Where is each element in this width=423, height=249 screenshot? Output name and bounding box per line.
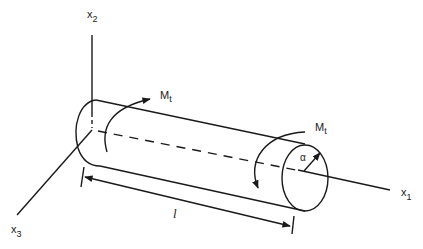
length-tick-right [292, 216, 294, 234]
right-torque-arrow [255, 132, 305, 188]
x1-axis [298, 170, 390, 190]
diagram-svg: x2 x3 x1 Mt Mt α l [0, 0, 423, 249]
x3-axis [17, 130, 92, 215]
radius-label: α [300, 152, 306, 163]
x2-label: x2 [87, 8, 98, 24]
x1-label: x1 [401, 186, 412, 202]
right-moment-label: Mt [315, 121, 327, 136]
left-moment-label: Mt [160, 89, 172, 104]
length-tick-left [81, 167, 84, 187]
radius-arrow [304, 153, 320, 171]
left-torque-arrow [105, 99, 150, 152]
length-label: l [173, 206, 177, 221]
left-end-cap [76, 100, 100, 166]
x3-label: x3 [11, 223, 22, 239]
torsion-diagram: x2 x3 x1 Mt Mt α l [0, 0, 423, 249]
centerline [98, 131, 296, 170]
